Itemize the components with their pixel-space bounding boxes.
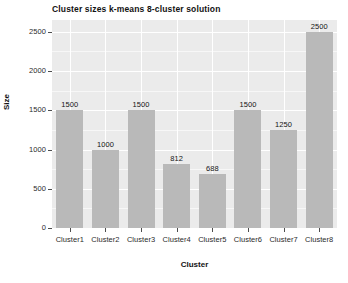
x-tick-mark	[212, 228, 213, 232]
bar	[306, 32, 333, 228]
bar-value-label: 1500	[123, 100, 159, 109]
y-gridline-minor	[52, 51, 337, 52]
x-axis-title: Cluster	[52, 260, 337, 269]
x-tick-mark	[177, 228, 178, 232]
chart-title: Cluster sizes k-means 8-cluster solution	[52, 4, 337, 14]
x-tick-mark	[248, 228, 249, 232]
y-tick-mark	[48, 71, 52, 72]
y-tick-label: 1500	[2, 105, 46, 114]
x-tick-mark	[105, 228, 106, 232]
bar	[92, 150, 119, 228]
x-tick-mark	[284, 228, 285, 232]
bar	[234, 110, 261, 228]
x-tick-mark	[319, 228, 320, 232]
plot-panel: 150010001500812688150012502500	[52, 20, 337, 228]
y-tick-mark	[48, 32, 52, 33]
bar-value-label: 1000	[88, 140, 124, 149]
bar-value-label: 1250	[266, 120, 302, 129]
bar-chart: Cluster sizes k-means 8-cluster solution…	[0, 0, 348, 283]
bar-value-label: 688	[195, 164, 231, 173]
y-tick-mark	[48, 150, 52, 151]
y-tick-label: 1000	[2, 145, 46, 154]
y-gridline-major	[52, 71, 337, 72]
y-gridline-major	[52, 110, 337, 111]
y-tick-label: 500	[2, 184, 46, 193]
y-tick-mark	[48, 189, 52, 190]
y-gridline-minor	[52, 91, 337, 92]
bar	[128, 110, 155, 228]
bar	[199, 174, 226, 228]
x-tick-label: Cluster8	[297, 235, 341, 244]
bar-value-label: 2500	[301, 22, 337, 31]
bar	[270, 130, 297, 228]
y-tick-label: 2000	[2, 66, 46, 75]
y-tick-mark	[48, 228, 52, 229]
x-tick-mark	[141, 228, 142, 232]
bar	[163, 164, 190, 228]
y-tick-label: 2500	[2, 27, 46, 36]
bar-value-label: 1500	[52, 100, 88, 109]
bar-value-label: 812	[159, 154, 195, 163]
y-tick-mark	[48, 110, 52, 111]
y-tick-label: 0	[2, 223, 46, 232]
x-tick-mark	[70, 228, 71, 232]
bar	[56, 110, 83, 228]
bar-value-label: 1500	[230, 100, 266, 109]
y-gridline-major	[52, 32, 337, 33]
